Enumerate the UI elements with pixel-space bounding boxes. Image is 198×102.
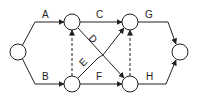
arrow-a: [22, 22, 64, 46]
label-c: C: [96, 9, 103, 20]
node-2: [64, 14, 80, 30]
label-f: F: [96, 71, 102, 82]
label-a: A: [42, 9, 49, 20]
label-b: B: [42, 71, 49, 82]
node-1: [10, 44, 26, 60]
arrow-g: [138, 22, 176, 44]
node-6: [172, 44, 188, 60]
network-diagram: A B C F D E G H: [0, 0, 198, 102]
node-4: [122, 14, 138, 30]
label-e: E: [77, 56, 90, 69]
label-g: G: [145, 9, 153, 20]
arrow-h: [138, 60, 176, 84]
node-3: [64, 76, 80, 92]
label-d: D: [87, 32, 100, 45]
label-h: H: [146, 71, 153, 82]
node-5: [122, 76, 138, 92]
